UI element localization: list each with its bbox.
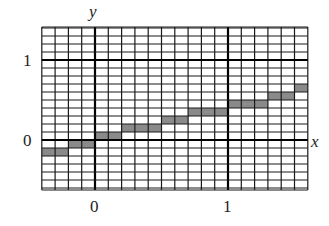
shaded-step-cell <box>188 108 228 116</box>
step-function-plot <box>0 0 329 226</box>
x-tick-label-1: 1 <box>223 198 232 215</box>
y-tick-label-1: 1 <box>23 52 32 69</box>
x-axis-label: x <box>311 133 319 150</box>
y-tick-label-0: 0 <box>23 132 32 149</box>
x-tick-label-0: 0 <box>90 198 99 215</box>
shaded-step-cell <box>122 124 162 132</box>
shaded-step-cell <box>295 84 308 92</box>
y-axis-label: y <box>89 3 97 20</box>
shaded-step-cell <box>228 100 268 108</box>
